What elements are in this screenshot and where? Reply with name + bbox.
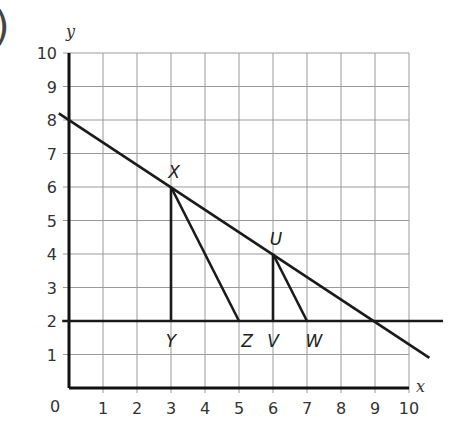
y-tick-label: 10 xyxy=(37,44,57,63)
point-label-v: V xyxy=(267,331,280,351)
point-label-w: W xyxy=(306,331,324,351)
x-tick-label: 6 xyxy=(268,399,278,418)
point-label-x: X xyxy=(167,162,180,182)
x-tick-label: 9 xyxy=(370,399,380,418)
y-tick-label: 4 xyxy=(47,245,57,264)
y-tick-label: 7 xyxy=(47,145,57,164)
point-labels: XUYZVW xyxy=(166,162,324,351)
y-tick-label: 8 xyxy=(47,111,57,130)
geometry-lines xyxy=(59,113,443,358)
coordinate-grid-figure: 1234567891012345678910 XUYZVW ) y x 0 xyxy=(0,0,459,443)
point-label-y: Y xyxy=(166,331,178,351)
grid xyxy=(63,53,409,393)
x-tick-label: 7 xyxy=(302,399,312,418)
corner-mark: ) xyxy=(0,3,10,49)
y-tick-label: 3 xyxy=(47,279,57,298)
x-tick-label: 2 xyxy=(132,399,142,418)
y-tick-label: 9 xyxy=(47,78,57,97)
origin-label: 0 xyxy=(50,397,60,416)
x-tick-label: 10 xyxy=(399,399,419,418)
x-tick-label: 8 xyxy=(336,399,346,418)
x-axis-label: x xyxy=(416,377,425,396)
tick-labels: 1234567891012345678910 xyxy=(37,44,420,418)
y-tick-label: 5 xyxy=(47,212,57,231)
x-tick-label: 4 xyxy=(200,399,210,418)
y-tick-label: 1 xyxy=(47,346,57,365)
point-label-z: Z xyxy=(240,331,253,351)
x-tick-label: 3 xyxy=(166,399,176,418)
point-label-u: U xyxy=(270,229,283,249)
x-tick-label: 1 xyxy=(98,399,108,418)
y-tick-label: 6 xyxy=(47,178,57,197)
x-tick-label: 5 xyxy=(234,399,244,418)
y-tick-label: 2 xyxy=(47,312,57,331)
y-axis-label: y xyxy=(65,22,76,41)
